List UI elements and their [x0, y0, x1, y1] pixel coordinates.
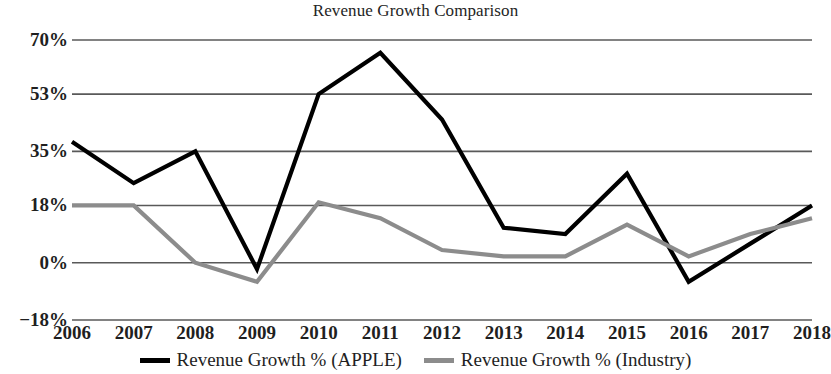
x-axis: 2006200720082009201020112012201320142015…: [72, 322, 812, 348]
chart-legend: Revenue Growth % (APPLE)Revenue Growth %…: [0, 349, 831, 371]
x-axis-tick-label: 2013: [485, 322, 523, 344]
legend-item[interactable]: Revenue Growth % (Industry): [424, 349, 692, 371]
y-axis: 70%53%35%18%0%−18%: [0, 0, 68, 374]
y-axis-tick-label: 18%: [2, 194, 68, 216]
x-axis-tick-label: 2012: [423, 322, 461, 344]
x-axis-tick-label: 2010: [300, 322, 338, 344]
y-axis-tick-label: 53%: [2, 83, 68, 105]
legend-line-swatch-icon: [140, 358, 170, 363]
legend-item[interactable]: Revenue Growth % (APPLE): [140, 349, 402, 371]
x-axis-tick-label: 2015: [608, 322, 646, 344]
x-axis-tick-label: 2006: [53, 322, 91, 344]
legend-item-label: Revenue Growth % (Industry): [461, 349, 692, 371]
x-axis-tick-label: 2018: [793, 322, 831, 344]
x-axis-tick-label: 2008: [176, 322, 214, 344]
y-axis-tick-label: 0%: [2, 252, 68, 274]
x-axis-tick-label: 2014: [546, 322, 584, 344]
series-line-industry: [72, 202, 812, 282]
x-axis-tick-label: 2011: [362, 322, 399, 344]
x-axis-tick-label: 2009: [238, 322, 276, 344]
x-axis-tick-label: 2007: [115, 322, 153, 344]
revenue-growth-chart: Revenue Growth Comparison 70%53%35%18%0%…: [0, 0, 831, 374]
y-axis-tick-label: 70%: [2, 29, 68, 51]
x-axis-tick-label: 2016: [670, 322, 708, 344]
legend-item-label: Revenue Growth % (APPLE): [177, 349, 402, 371]
legend-line-swatch-icon: [424, 358, 454, 363]
series-line-apple: [72, 53, 812, 282]
x-axis-tick-label: 2017: [731, 322, 769, 344]
y-axis-tick-label: 35%: [2, 140, 68, 162]
chart-plot-area: [0, 0, 831, 374]
